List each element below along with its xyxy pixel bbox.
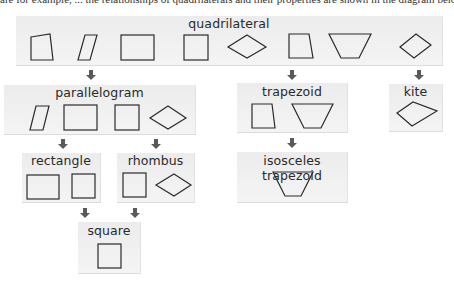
arrow-down-icon [414, 70, 424, 80]
arrow-down-icon [130, 208, 140, 218]
rhombus-shape [228, 35, 266, 58]
square-shape [72, 174, 95, 198]
arrow-down-icon [287, 70, 297, 80]
rectangle-shape [64, 105, 97, 130]
diagram-shapes [0, 0, 454, 289]
arrow-down-icon [80, 208, 90, 218]
right-trapezoid-shape [252, 104, 275, 128]
isosceles-trapezoid-shape [329, 34, 371, 58]
square-shape [98, 244, 121, 268]
arrow-down-icon [86, 70, 96, 80]
square-shape [123, 173, 146, 197]
parallelogram-shape [78, 35, 97, 60]
rhombus-shape [150, 106, 186, 129]
rhombus-shape [156, 174, 191, 196]
arrow-down-icon [287, 138, 297, 148]
square-shape [115, 105, 139, 130]
parallelogram-shape [30, 106, 49, 130]
isosceles-trapezoid-shape [273, 172, 313, 196]
rectangle-shape [27, 175, 59, 199]
right-trapezoid-shape [289, 34, 313, 58]
irregular-quadrilateral-shape [31, 34, 53, 60]
arrow-down-icon [151, 139, 161, 149]
kite-shape [397, 102, 437, 126]
square-shape [184, 35, 208, 60]
kite-shape [400, 34, 431, 58]
isosceles-trapezoid-shape [292, 104, 333, 128]
arrow-down-icon [58, 139, 68, 149]
rectangle-shape [121, 35, 154, 60]
